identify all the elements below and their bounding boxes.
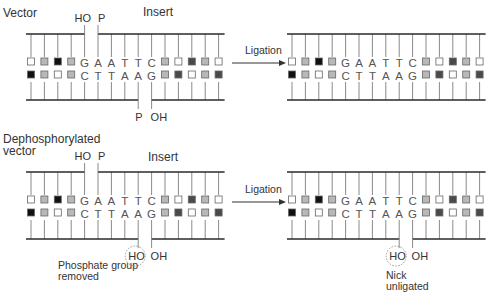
base-box-light-bottom xyxy=(463,209,470,216)
base-box-black-bottom xyxy=(28,209,35,216)
base-letter-bottom: T xyxy=(355,70,362,82)
end-label-ho-top: HO xyxy=(75,12,92,24)
base-letter-top: G xyxy=(341,195,350,207)
base-letter-bottom: T xyxy=(369,70,376,82)
base-box-light-bottom xyxy=(68,209,75,216)
base-letter-bottom: G xyxy=(147,208,156,220)
base-box-light-top xyxy=(329,58,336,65)
base-box-dark-bottom xyxy=(175,209,182,216)
base-letter-top: T xyxy=(396,57,403,69)
base-letter-bottom: T xyxy=(369,208,376,220)
base-letter-top: C xyxy=(408,195,416,207)
base-box-light-top xyxy=(41,58,48,65)
base-box-black-bottom xyxy=(28,71,35,78)
base-letter-bottom: T xyxy=(108,208,115,220)
base-box-black-top xyxy=(315,58,322,65)
base-letter-bottom: C xyxy=(341,208,349,220)
base-box-light-top xyxy=(463,196,470,203)
base-box-light-bottom xyxy=(202,209,209,216)
base-box-white-top xyxy=(289,196,296,203)
base-box-white-top xyxy=(28,196,35,203)
base-letter-top: T xyxy=(135,195,142,207)
base-box-light-bottom xyxy=(302,71,309,78)
base-letter-bottom: A xyxy=(134,208,142,220)
base-letter-bottom: C xyxy=(80,70,88,82)
base-box-white-top xyxy=(175,58,182,65)
base-letter-bottom: A xyxy=(395,70,403,82)
base-box-white-bottom xyxy=(54,209,61,216)
base-letter-top: A xyxy=(108,195,116,207)
base-letter-top: A xyxy=(355,57,363,69)
phosphate-removed-line2: removed xyxy=(58,270,99,282)
base-box-white-top xyxy=(436,196,443,203)
base-box-light-top xyxy=(68,196,75,203)
base-box-dark-top xyxy=(188,58,195,65)
end-label-ho-top: HO xyxy=(75,150,92,162)
base-letter-top: A xyxy=(94,195,102,207)
base-box-dark-bottom xyxy=(476,209,483,216)
base-box-light-top xyxy=(41,196,48,203)
base-box-light-bottom xyxy=(423,71,430,78)
base-letter-top: G xyxy=(80,57,89,69)
base-box-white-top xyxy=(215,58,222,65)
base-box-light-bottom xyxy=(329,209,336,216)
base-letter-top: T xyxy=(135,57,142,69)
base-box-light-top xyxy=(202,58,209,65)
base-letter-top: G xyxy=(341,57,350,69)
base-box-white-bottom xyxy=(449,71,456,78)
base-letter-bottom: G xyxy=(408,208,417,220)
base-letter-bottom: A xyxy=(134,70,142,82)
base-letter-top: A xyxy=(369,195,377,207)
base-box-white-bottom xyxy=(188,209,195,216)
end-label-oh-bottom: OH xyxy=(151,111,168,123)
base-box-light-bottom xyxy=(162,71,169,78)
base-letter-bottom: G xyxy=(408,70,417,82)
base-box-white-top xyxy=(175,196,182,203)
nick-unligated-line2: unligated xyxy=(386,280,429,292)
ligation-label-top: Ligation xyxy=(245,44,282,56)
base-letter-top: A xyxy=(108,57,116,69)
base-letter-bottom: A xyxy=(395,208,403,220)
base-letter-top: A xyxy=(94,57,102,69)
base-letter-top: T xyxy=(121,195,128,207)
base-letter-bottom: C xyxy=(80,208,88,220)
base-letter-top: T xyxy=(382,57,389,69)
base-box-white-top xyxy=(436,58,443,65)
base-letter-bottom: A xyxy=(382,208,390,220)
base-box-light-bottom xyxy=(329,71,336,78)
base-box-dark-bottom xyxy=(175,71,182,78)
end-label-bottom-left: HO xyxy=(389,250,406,262)
base-letter-top: C xyxy=(408,57,416,69)
base-box-white-bottom xyxy=(315,71,322,78)
base-box-black-top xyxy=(315,196,322,203)
ligation-arrow-icon xyxy=(279,199,286,205)
end-label-oh-bottom: OH xyxy=(412,250,429,262)
base-box-light-bottom xyxy=(41,209,48,216)
base-letter-bottom: T xyxy=(94,208,101,220)
base-box-dark-bottom xyxy=(476,71,483,78)
base-box-white-bottom xyxy=(449,209,456,216)
base-box-light-top xyxy=(423,196,430,203)
base-letter-bottom: T xyxy=(94,70,101,82)
base-box-black-top xyxy=(54,196,61,203)
base-box-light-top xyxy=(423,58,430,65)
base-box-black-bottom xyxy=(289,209,296,216)
base-box-light-bottom xyxy=(302,209,309,216)
end-label-oh-bottom: OH xyxy=(151,250,168,262)
base-box-white-bottom xyxy=(315,209,322,216)
base-box-light-top xyxy=(329,196,336,203)
ligation-arrow-icon xyxy=(279,60,286,66)
base-letter-top: A xyxy=(369,57,377,69)
base-box-light-top xyxy=(68,58,75,65)
end-label-p-top: P xyxy=(98,12,105,24)
base-letter-bottom: A xyxy=(121,70,129,82)
dephosphorylated-label-line2: vector xyxy=(3,145,36,157)
base-box-dark-top xyxy=(449,58,456,65)
base-box-dark-bottom xyxy=(436,209,443,216)
base-box-light-top xyxy=(202,196,209,203)
base-box-dark-top xyxy=(188,196,195,203)
base-box-light-bottom xyxy=(423,209,430,216)
base-box-dark-top xyxy=(449,196,456,203)
base-box-light-bottom xyxy=(202,71,209,78)
base-box-light-top xyxy=(302,196,309,203)
